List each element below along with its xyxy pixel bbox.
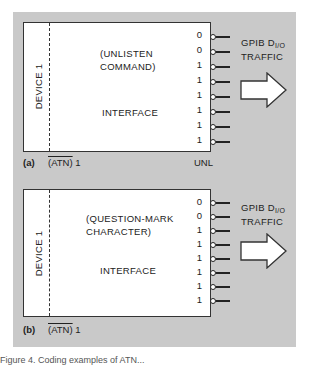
pin-a-0 <box>210 33 232 41</box>
pin-b-7 <box>210 297 232 305</box>
bit-b-0: 0 <box>194 196 202 207</box>
device-label-b: DEVICE 1 <box>33 224 44 284</box>
pin-b-5 <box>210 269 232 277</box>
device-label-a: DEVICE 1 <box>33 57 44 117</box>
bit-a-4: 1 <box>194 89 202 100</box>
bit-b-6: 1 <box>194 280 202 291</box>
bit-b-7: 1 <box>194 294 202 305</box>
command-title-line2-a: COMMAND) <box>100 61 156 72</box>
pin-b-4 <box>210 255 232 263</box>
pin-a-7 <box>210 138 232 146</box>
bit-a-2: 1 <box>194 59 202 70</box>
traffic-label-b: GPIB DI/O <box>241 202 285 214</box>
arrow-right-icon <box>240 233 288 269</box>
traffic-label2-a: TRAFFIC <box>241 51 283 62</box>
arrow-right-icon <box>240 72 288 108</box>
pin-a-2 <box>210 63 232 71</box>
bit-b-5: 1 <box>194 266 202 277</box>
pin-a-3 <box>210 78 232 86</box>
pin-b-3 <box>210 241 232 249</box>
pin-b-1 <box>210 213 232 221</box>
interface-label-b: INTERFACE <box>100 265 156 276</box>
bit-a-7: 1 <box>194 134 202 145</box>
command-title-line1-b: (QUESTION-MARK <box>86 213 174 224</box>
figure-caption: Figure 4. Coding examples of ATN... <box>0 355 144 365</box>
atn-label-a: (ATN) 1 <box>48 157 81 168</box>
bit-b-1: 0 <box>194 210 202 221</box>
command-title-line1-a: (UNLISTEN <box>100 48 153 59</box>
traffic-label-a: GPIB DI/O <box>241 37 285 49</box>
device-box-a: DEVICE 1 (UNLISTEN COMMAND) INTERFACE 0 … <box>23 22 211 152</box>
pin-a-1 <box>210 48 232 56</box>
bit-b-4: 1 <box>194 252 202 263</box>
pin-a-4 <box>210 93 232 101</box>
bit-a-6: 1 <box>194 119 202 130</box>
bit-b-2: 1 <box>194 224 202 235</box>
panel-label-b: (b) <box>23 324 35 335</box>
device-divider-b <box>49 190 50 316</box>
bit-a-0: 0 <box>194 29 202 40</box>
bit-a-1: 0 <box>194 44 202 55</box>
bit-b-3: 1 <box>194 238 202 249</box>
device-box-b: DEVICE 1 (QUESTION-MARK CHARACTER) INTER… <box>23 189 211 317</box>
traffic-label2-b: TRAFFIC <box>241 216 283 227</box>
bit-a-3: 1 <box>194 74 202 85</box>
atn-label-b: (ATN) 1 <box>48 324 81 335</box>
pin-b-2 <box>210 227 232 235</box>
pin-b-0 <box>210 199 232 207</box>
panel-label-a: (a) <box>23 157 35 168</box>
bit-a-5: 1 <box>194 104 202 115</box>
pin-a-5 <box>210 108 232 116</box>
interface-label-a: INTERFACE <box>102 107 158 118</box>
pin-b-6 <box>210 283 232 291</box>
unl-label: UNL <box>194 157 213 168</box>
device-divider-a <box>49 23 50 151</box>
pin-a-6 <box>210 123 232 131</box>
command-title-line2-b: CHARACTER) <box>86 226 151 237</box>
